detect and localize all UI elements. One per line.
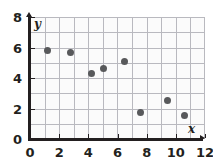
data-point [137,109,144,116]
y-tick-label: 8 [13,11,22,24]
x-tick-label: 8 [142,146,151,159]
x-axis-tick [88,134,89,138]
y-tick-label: 4 [13,72,22,85]
grid-lines [30,17,205,139]
data-point [44,47,51,54]
grid-right-edge [204,17,205,139]
y-axis-tick [31,78,35,79]
data-point [181,112,188,119]
x-axis-tick [147,134,148,138]
x-axis-line [28,138,203,141]
x-tick-label: 10 [167,146,185,159]
x-tick-label: 2 [55,146,64,159]
y-tick-label: 0 [13,133,22,146]
x-axis-label: x [188,123,195,135]
x-tick-label: 4 [84,146,93,159]
x-axis-tick [205,134,206,138]
x-tick-label: 12 [196,146,213,159]
y-axis-tick [31,109,35,110]
data-point [164,97,171,104]
plot-area [30,17,205,139]
y-axis-label: y [34,18,41,30]
x-axis-tick [176,134,177,138]
x-axis-tick [59,134,60,138]
x-tick-label: 6 [113,146,122,159]
x-axis-tick [118,134,119,138]
y-axis-tick [31,48,35,49]
x-axis-tick [30,134,31,138]
x-tick-label: 0 [25,146,34,159]
y-tick-label: 6 [13,41,22,54]
y-axis-tick [31,139,35,140]
scatter-plot-figure: 024681012 02468 y x [0,0,213,164]
y-tick-label: 2 [13,102,22,115]
